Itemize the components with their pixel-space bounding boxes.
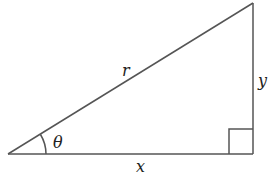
hypotenuse-label: r [122, 61, 131, 80]
angle-label: θ [53, 133, 63, 152]
right-triangle-diagram: r y θ x [0, 0, 275, 189]
angle-arc [41, 135, 47, 155]
adjacent-label: x [136, 157, 145, 176]
right-angle-marker [229, 129, 253, 154]
opposite-label: y [257, 71, 268, 90]
hypotenuse-line [8, 3, 253, 154]
triangle-svg: r y θ x [0, 0, 275, 189]
